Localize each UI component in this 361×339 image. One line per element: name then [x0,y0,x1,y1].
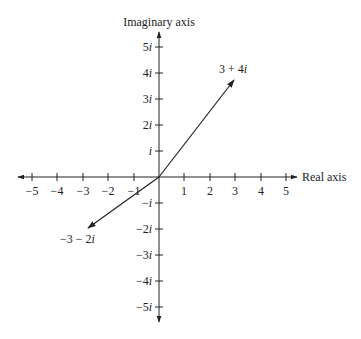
svg-text:3: 3 [232,184,238,198]
svg-text:−i: −i [142,196,152,210]
real-axis-tick-labels: −5 −4 −3 −2 −1 1 2 3 4 5 [26,184,289,198]
svg-text:−4i: −4i [136,274,152,288]
svg-text:2: 2 [207,184,213,198]
svg-text:−3: −3 [77,184,90,198]
svg-text:−4: −4 [51,184,64,198]
real-axis-label: Real axis [302,170,347,184]
svg-text:5i: 5i [143,40,152,54]
complex-plane-diagram: −5 −4 −3 −2 −1 1 2 3 4 5 5i 4i 3i 2i i −… [0,0,361,339]
svg-text:4: 4 [258,184,264,198]
svg-text:−1: −1 [128,184,141,198]
svg-text:3i: 3i [143,92,152,106]
svg-text:−5: −5 [26,184,39,198]
vector-label-neg3-minus-2i: −3 − 2i [60,232,95,246]
svg-text:i: i [149,144,152,158]
svg-text:−2: −2 [102,184,115,198]
svg-text:2i: 2i [143,118,152,132]
vector-3-plus-4i [159,80,234,177]
svg-text:1: 1 [181,184,187,198]
svg-text:−3i: −3i [136,248,152,262]
svg-text:5: 5 [283,184,289,198]
svg-text:4i: 4i [143,66,152,80]
svg-text:−5i: −5i [136,300,152,314]
svg-text:−2i: −2i [136,222,152,236]
imaginary-axis-label: Imaginary axis [123,15,195,29]
vector-label-3-plus-4i: 3 + 4i [219,62,247,76]
